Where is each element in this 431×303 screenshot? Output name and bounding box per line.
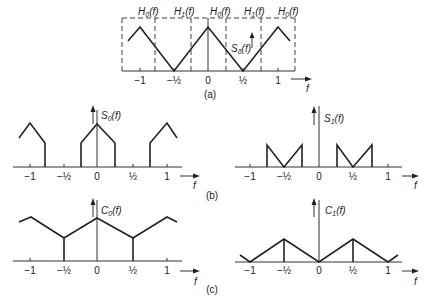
panel-a: H0(f) H1(f) H0(f) H1(f) H0(f) Sδ(f) −1 −… (122, 6, 312, 100)
tick-label: −1 (244, 265, 256, 276)
arrowhead-icon (91, 105, 96, 112)
tick-label: 1 (164, 171, 170, 182)
s1-label: S1(f) (324, 113, 344, 125)
tick-label: −1 (134, 75, 146, 86)
tick-label: −½ (277, 171, 292, 182)
s0-curve (81, 124, 115, 167)
panel-b-right: S1(f) −1 −½ 0 ½ 1 f (235, 106, 419, 191)
tick-label: −½ (57, 265, 72, 276)
tick-label: 1 (164, 265, 170, 276)
caption-a: (a) (204, 89, 216, 100)
band-label-h0: H0(f) (138, 6, 159, 18)
tick-label: 1 (275, 75, 281, 86)
axis-label-f: f (414, 276, 418, 287)
axis-label-f: f (193, 180, 197, 191)
band-label-h0: H0(f) (278, 6, 299, 18)
arrowhead-icon (91, 198, 96, 205)
arrowhead-icon (305, 77, 312, 82)
s-delta-curve (128, 27, 290, 71)
s1-curve (267, 145, 302, 167)
tick-label: 1 (385, 265, 391, 276)
axis-label-f: f (306, 83, 310, 94)
tick-label: ½ (129, 171, 138, 182)
arrowhead-icon (193, 269, 200, 274)
axis-label-f: f (414, 180, 418, 191)
tick-label: 0 (94, 265, 100, 276)
band-label-h1: H1(f) (244, 6, 265, 18)
tick-label: ½ (349, 265, 358, 276)
panel-c-right: C1(f) −1 −½ 0 ½ 1 f (235, 198, 419, 287)
arrowhead-icon (250, 32, 255, 38)
c1-label: C1(f) (325, 205, 346, 217)
c0-label: C0(f) (101, 205, 122, 217)
tick-label: 0 (205, 75, 211, 86)
tick-label: −1 (24, 265, 36, 276)
s1-curve (337, 145, 372, 167)
band-label-h1: H1(f) (174, 6, 195, 18)
figure: H0(f) H1(f) H0(f) H1(f) H0(f) Sδ(f) −1 −… (0, 0, 431, 303)
tick-label: −½ (167, 75, 182, 86)
arrowhead-icon (412, 174, 419, 179)
tick-label: ½ (129, 265, 138, 276)
panel-c-left: C0(f) −1 −½ 0 ½ 1 f (13, 198, 200, 287)
arrowhead-icon (412, 269, 419, 274)
tick-label: ½ (239, 75, 248, 86)
tick-label: −1 (24, 171, 36, 182)
s0-curve (19, 123, 45, 167)
arrowhead-icon (193, 174, 200, 179)
caption-b: (b) (206, 190, 218, 201)
tick-label: −½ (57, 171, 72, 182)
s-delta-label: Sδ(f) (231, 43, 251, 55)
arrowhead-icon (312, 198, 317, 205)
s0-label: S0(f) (101, 110, 121, 122)
axis-label-f: f (194, 276, 198, 287)
tick-label: 1 (385, 171, 391, 182)
tick-label: −½ (277, 265, 292, 276)
tick-label: −1 (244, 171, 256, 182)
s0-curve (150, 123, 177, 167)
tick-label: 0 (316, 265, 322, 276)
caption-c: (c) (206, 284, 218, 295)
band-label-h0: H0(f) (210, 6, 231, 18)
tick-label: 0 (94, 171, 100, 182)
arrowhead-icon (312, 106, 317, 113)
panel-b-left: S0(f) −1 −½ 0 ½ 1 f (13, 105, 200, 191)
c0-curve (19, 217, 177, 238)
tick-label: ½ (349, 171, 358, 182)
tick-label: 0 (316, 171, 322, 182)
